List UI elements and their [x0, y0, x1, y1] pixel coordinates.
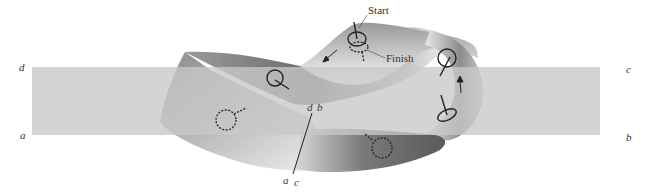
seam-label-d: d — [307, 102, 313, 113]
finish-label: Finish — [386, 53, 414, 64]
seam-label-b: b — [317, 102, 323, 113]
diagram-canvas — [0, 0, 651, 192]
corner-label-bottom-left: a — [20, 130, 26, 141]
seam-label-c: c — [294, 177, 299, 188]
corner-label-top-left: d — [19, 62, 25, 73]
start-label: Start — [368, 5, 389, 16]
corner-label-bottom-right: b — [626, 132, 632, 143]
seam-label-a: a — [283, 175, 289, 186]
corner-label-top-right: c — [626, 64, 631, 75]
band-bottom-face — [295, 129, 445, 172]
flat-strip-rectangle — [32, 67, 600, 135]
mobius-diagram: Start Finish d a c b d b a c — [0, 0, 651, 192]
